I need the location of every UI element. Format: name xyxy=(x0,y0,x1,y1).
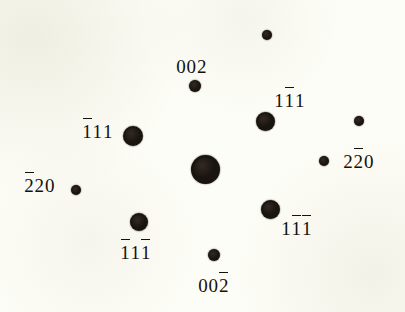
miller-index-digit: 0 xyxy=(45,176,55,195)
miller-index-digit: 2 xyxy=(24,176,34,195)
miller-index-digit: 1 xyxy=(92,122,102,141)
miller-index-digit: 1 xyxy=(130,243,140,262)
diffraction-spot xyxy=(123,126,143,146)
miller-index-digit: 2 xyxy=(219,276,229,295)
miller-index-digit: 1 xyxy=(274,91,284,110)
miller-index-label: 111 xyxy=(120,243,151,262)
diffraction-spot xyxy=(262,30,272,40)
diffraction-pattern-figure: 002111111220220111111002 xyxy=(0,0,405,312)
miller-index-label: 111 xyxy=(274,91,305,110)
miller-index-digit: 1 xyxy=(120,243,130,262)
miller-index-label: 111 xyxy=(281,219,312,238)
diffraction-spot xyxy=(319,156,330,167)
miller-index-digit: 0 xyxy=(186,57,196,76)
diffraction-spot xyxy=(71,185,82,196)
miller-index-digit: 1 xyxy=(103,122,113,141)
miller-index-digit: 0 xyxy=(208,276,218,295)
miller-index-label: 220 xyxy=(24,176,55,195)
miller-index-digit: 0 xyxy=(364,152,374,171)
diffraction-spot xyxy=(256,112,275,131)
miller-index-label: 002 xyxy=(176,57,207,76)
diffraction-spot xyxy=(208,249,220,261)
miller-index-digit: 1 xyxy=(284,91,294,110)
miller-index-digit: 0 xyxy=(198,276,208,295)
diffraction-spot xyxy=(189,80,201,92)
miller-index-digit: 2 xyxy=(34,176,44,195)
miller-index-digit: 1 xyxy=(141,243,151,262)
miller-index-digit: 1 xyxy=(295,91,305,110)
diffraction-spot xyxy=(130,213,148,231)
miller-index-digit: 0 xyxy=(176,57,186,76)
miller-index-digit: 1 xyxy=(281,219,291,238)
miller-index-label: 002 xyxy=(198,276,229,295)
miller-index-digit: 1 xyxy=(302,219,312,238)
miller-index-digit: 1 xyxy=(82,122,92,141)
diffraction-spot xyxy=(261,200,280,219)
diffraction-spot xyxy=(191,155,220,184)
miller-index-digit: 2 xyxy=(343,152,353,171)
diffraction-spot xyxy=(354,116,364,126)
miller-index-digit: 1 xyxy=(291,219,301,238)
miller-index-digit: 2 xyxy=(197,57,207,76)
miller-index-label: 111 xyxy=(82,122,113,141)
miller-index-label: 220 xyxy=(343,152,374,171)
miller-index-digit: 2 xyxy=(353,152,363,171)
